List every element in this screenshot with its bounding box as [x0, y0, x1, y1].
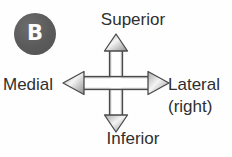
arrowhead-right	[148, 72, 169, 95]
arrow-center-joint	[111, 78, 121, 88]
four-way-arrow-icon	[62, 33, 170, 133]
axis-label-lateral: Lateral	[168, 74, 220, 95]
arrowhead-left	[63, 72, 84, 95]
axis-label-lateral-side: (right)	[168, 96, 212, 117]
arrowhead-up	[105, 34, 128, 51]
four-way-arrow-svg	[62, 33, 170, 133]
anatomical-direction-figure: B Superior Medial Lateral (right) Inferi…	[0, 0, 232, 157]
arrowhead-down	[105, 115, 128, 132]
axis-label-medial: Medial	[3, 74, 53, 95]
axis-label-superior: Superior	[0, 9, 232, 30]
